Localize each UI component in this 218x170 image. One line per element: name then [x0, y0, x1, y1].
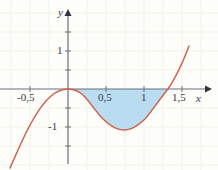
y-tick-label-minus-1: -1	[48, 120, 57, 132]
x-tick-label-1: 1	[141, 91, 147, 103]
plot-background	[0, 0, 218, 170]
plot-canvas	[0, 0, 218, 170]
x-tick-label-0-5: 0,5	[98, 91, 112, 103]
y-axis-label: y	[58, 6, 63, 18]
x-tick-label-minus-0-5: -0,5	[17, 91, 34, 103]
function-graph-figure: y x -0,5 0,5 1 1,5 1 -1	[0, 0, 218, 170]
x-tick-label-1-5: 1,5	[172, 91, 186, 103]
x-axis-label: x	[196, 92, 201, 104]
y-tick-label-1: 1	[57, 44, 63, 56]
